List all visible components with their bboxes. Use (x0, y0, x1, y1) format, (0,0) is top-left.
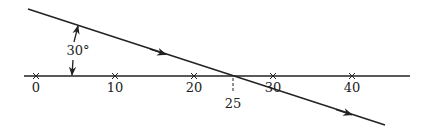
tick-label-40: 40 (344, 80, 361, 95)
tick-label-0: 0 (32, 80, 40, 95)
ray-direction-arrow-icon (336, 110, 352, 115)
tick-label-10: 10 (107, 80, 124, 95)
angle-arrow-down-icon (72, 60, 73, 75)
diagram-canvas: 0 10 20 30 40 25 30° (0, 0, 430, 132)
angle-arrow-up-icon (74, 26, 78, 42)
tick-label-30: 30 (265, 80, 282, 95)
ray-line (28, 9, 385, 125)
tick-label-20: 20 (186, 80, 203, 95)
angle-label: 30° (66, 43, 89, 58)
marker-label-25: 25 (225, 96, 242, 111)
ray-direction-arrow-icon (150, 49, 166, 54)
